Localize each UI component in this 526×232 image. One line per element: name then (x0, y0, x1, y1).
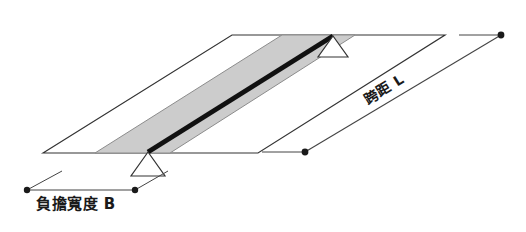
dimension-dot-b-left (24, 187, 30, 193)
width-label: 負擔寬度 B (36, 195, 116, 213)
structural-diagram: 負擔寬度 B 跨距 L (0, 0, 526, 232)
dimension-dot-b-right (132, 187, 138, 193)
dimension-dot-l-upper (498, 32, 505, 39)
diagram-canvas: 負擔寬度 B 跨距 L (0, 0, 526, 232)
dimension-dot-l-lower (302, 149, 309, 156)
